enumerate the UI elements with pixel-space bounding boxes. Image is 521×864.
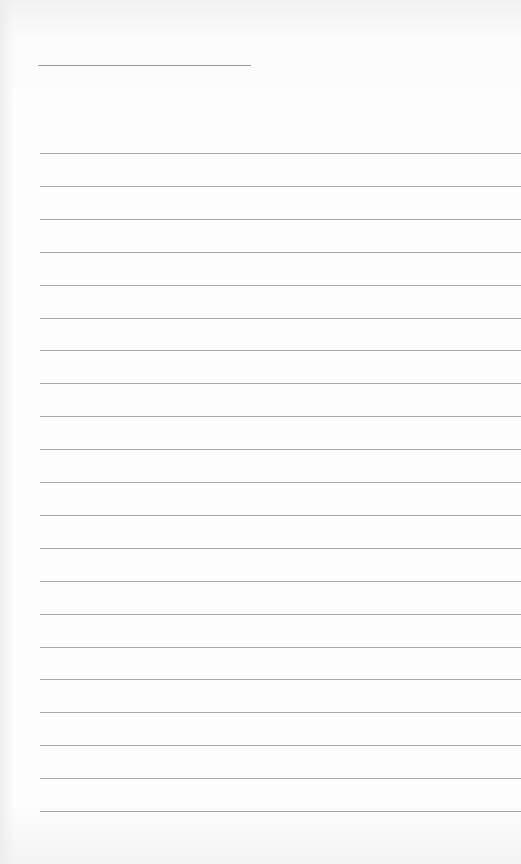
- ruled-line: [40, 416, 521, 417]
- ruled-line: [40, 515, 521, 516]
- paper-edge-shadow: [0, 0, 14, 864]
- ruled-line: [40, 482, 521, 483]
- header-name-line: [38, 65, 251, 66]
- ruled-line: [40, 581, 521, 582]
- ruled-line: [40, 679, 521, 680]
- ruled-line: [40, 285, 521, 286]
- ruled-line: [40, 219, 521, 220]
- ruled-line: [40, 712, 521, 713]
- ruled-line: [40, 449, 521, 450]
- ruled-line: [40, 318, 521, 319]
- lined-paper-sheet: [0, 0, 521, 864]
- ruled-line: [40, 745, 521, 746]
- ruled-line: [40, 811, 521, 812]
- ruled-line: [40, 252, 521, 253]
- ruled-line: [40, 548, 521, 549]
- ruled-line: [40, 383, 521, 384]
- ruled-line: [40, 647, 521, 648]
- ruled-line: [40, 153, 521, 154]
- ruled-line: [40, 778, 521, 779]
- ruled-line: [40, 614, 521, 615]
- ruled-line: [40, 186, 521, 187]
- ruled-line: [40, 350, 521, 351]
